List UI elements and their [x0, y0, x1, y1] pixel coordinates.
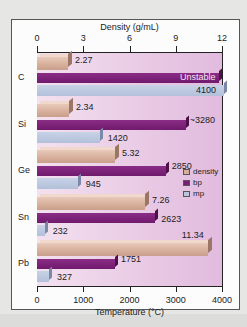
legend-swatch — [183, 180, 190, 186]
mp-bar — [37, 178, 78, 189]
density-bar — [37, 197, 145, 210]
bp-bar — [37, 213, 155, 223]
legend-label: bp — [193, 178, 202, 187]
bottom-tick — [37, 286, 38, 292]
top-axis-title: Density (g/mL) — [100, 22, 159, 32]
bottom-tick — [130, 286, 131, 292]
element-label: Pb — [18, 258, 29, 268]
legend-item-bp: bp — [183, 177, 218, 188]
bp-value: ~3280 — [190, 115, 215, 125]
density-bar — [37, 57, 68, 70]
density-value: 5.32 — [122, 148, 140, 158]
top-tick-label: 12 — [217, 33, 227, 43]
element-label: Ge — [18, 165, 30, 175]
bottom-tick-label: 1000 — [73, 295, 93, 305]
bottom-tick — [176, 286, 177, 292]
legend-swatch — [183, 191, 190, 197]
mp-value: 232 — [53, 226, 68, 236]
element-label: C — [18, 72, 25, 82]
mp-bar — [37, 271, 49, 282]
mp-bar — [37, 132, 100, 143]
top-tick-label: 9 — [173, 33, 178, 43]
legend-label: density — [193, 167, 218, 176]
bp-value: Unstable — [180, 72, 216, 82]
top-tick — [130, 46, 131, 52]
bottom-axis-title: Temperature (°C) — [95, 307, 164, 317]
density-value: 7.26 — [152, 195, 170, 205]
top-tick — [176, 46, 177, 52]
density-value: 2.34 — [76, 102, 94, 112]
mp-value: 945 — [86, 179, 101, 189]
top-tick-label: 6 — [127, 33, 132, 43]
density-bar — [37, 104, 69, 117]
bottom-tick-label: 4000 — [212, 295, 232, 305]
density-bar — [37, 150, 115, 163]
bp-value: 1751 — [121, 254, 141, 264]
mp-value: 1420 — [108, 133, 128, 143]
mp-value: 327 — [57, 272, 72, 282]
element-label: Sn — [18, 212, 29, 222]
legend: densitybpmp — [183, 166, 218, 199]
bp-bar — [37, 120, 186, 130]
density-value: 2.27 — [75, 55, 93, 65]
legend-label: mp — [193, 189, 204, 198]
bp-value: 2623 — [161, 214, 181, 224]
top-tick — [37, 46, 38, 52]
top-axis-line — [37, 52, 222, 53]
bottom-tick-label: 2000 — [119, 295, 139, 305]
bottom-tick — [83, 286, 84, 292]
legend-item-mp: mp — [183, 188, 218, 199]
top-tick — [83, 46, 84, 52]
bottom-tick-label: 0 — [34, 295, 39, 305]
top-tick — [222, 46, 223, 52]
bp-bar — [37, 166, 166, 176]
legend-item-density: density — [183, 166, 218, 177]
top-tick-label: 0 — [34, 33, 39, 43]
legend-swatch — [183, 169, 190, 175]
bottom-tick — [222, 286, 223, 292]
mp-bar — [37, 225, 45, 236]
density-value: 11.34 — [182, 230, 204, 240]
top-tick-label: 3 — [81, 33, 86, 43]
element-label: Si — [18, 119, 26, 129]
mp-value: 4100 — [196, 85, 216, 95]
bottom-tick-label: 3000 — [166, 295, 186, 305]
